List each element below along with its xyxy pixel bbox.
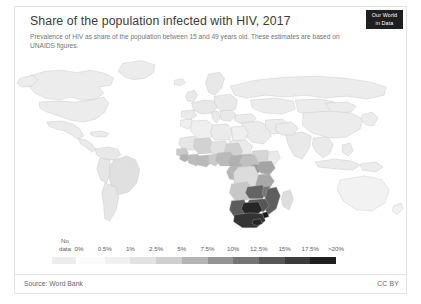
owid-chart: Share of the population infected with HI… <box>0 0 421 304</box>
footer-divider <box>15 274 406 275</box>
region-korea-japan[interactable] <box>361 112 378 126</box>
legend-segment-7[interactable] <box>259 257 285 264</box>
region-new-guinea[interactable] <box>360 162 383 172</box>
region-balkans[interactable] <box>219 110 236 121</box>
legend-tick-0: 0% <box>75 245 84 253</box>
legend-color-bar[interactable] <box>52 257 336 264</box>
region-russia[interactable] <box>230 76 386 99</box>
logo-line-1: Our World <box>366 11 403 19</box>
legend-tick-10: >20% <box>328 245 344 253</box>
world-choropleth-map[interactable] <box>16 56 405 234</box>
legend-no-data-swatch[interactable] <box>52 257 76 264</box>
region-madagascar[interactable] <box>281 190 293 210</box>
legend-segment-3[interactable] <box>156 257 182 264</box>
region-argentina-chile[interactable] <box>102 183 119 221</box>
legend-no-data-line-1: No <box>52 237 78 245</box>
legend-tick-7: 12.5% <box>250 245 268 253</box>
page-title: Share of the population infected with HI… <box>30 14 350 29</box>
license-label[interactable]: CC BY <box>377 279 399 288</box>
legend-segment-1[interactable] <box>105 257 131 264</box>
region-italy[interactable] <box>211 111 220 123</box>
region-pakistan-afghanistan[interactable] <box>275 122 298 135</box>
region-colombia-venezuela[interactable] <box>95 147 121 160</box>
legend-tick-4: 5% <box>177 245 186 253</box>
source-label[interactable]: Source: Word Bank <box>24 279 83 288</box>
logo-line-2: in Data <box>366 19 403 27</box>
map-legend[interactable]: No data 0%0.5%1%2.5%5%7.5%10%12.5%15%17.… <box>52 236 336 272</box>
region-kenya[interactable] <box>257 161 275 175</box>
region-central-asia[interactable] <box>250 98 295 114</box>
region-southeast-asia[interactable] <box>312 137 333 158</box>
legend-tick-5: 7.5% <box>200 245 214 253</box>
region-peru-bolivia[interactable] <box>97 158 110 183</box>
region-eastern-europe[interactable] <box>214 94 237 113</box>
region-greenland[interactable] <box>118 61 154 80</box>
chart-header: Share of the population infected with HI… <box>30 14 350 51</box>
legend-segment-4[interactable] <box>182 257 208 264</box>
legend-segment-0[interactable] <box>79 257 105 264</box>
legend-tick-6: 10% <box>227 245 239 253</box>
region-china[interactable] <box>302 111 363 138</box>
region-iberia[interactable] <box>182 110 197 120</box>
region-united-states[interactable] <box>39 97 109 122</box>
region-australia[interactable] <box>337 176 389 211</box>
legend-segment-5[interactable] <box>208 257 234 264</box>
region-iceland[interactable] <box>174 79 185 86</box>
legend-tick-3: 2.5% <box>149 245 163 253</box>
region-libya[interactable] <box>211 124 233 140</box>
region-uk-ireland[interactable] <box>186 90 198 102</box>
region-india[interactable] <box>285 132 311 159</box>
map-svg <box>16 56 405 234</box>
legend-gradient-bar[interactable] <box>79 257 336 264</box>
chart-subtitle: Prevalence of HIV as share of the popula… <box>30 32 342 51</box>
region-canada[interactable] <box>27 70 114 100</box>
legend-tick-1: 0.5% <box>98 245 112 253</box>
region-scandinavia[interactable] <box>206 72 225 95</box>
legend-segment-8[interactable] <box>285 257 311 264</box>
legend-segment-6[interactable] <box>233 257 259 264</box>
our-world-in-data-logo[interactable]: Our World in Data <box>366 10 403 29</box>
legend-segment-2[interactable] <box>130 257 156 264</box>
region-philippines[interactable] <box>342 143 353 156</box>
legend-tick-8: 15% <box>278 245 290 253</box>
legend-tick-9: 17.5% <box>302 245 320 253</box>
region-mexico[interactable] <box>47 121 84 139</box>
region-indonesia[interactable] <box>315 159 360 170</box>
region-central-america[interactable] <box>78 138 96 152</box>
legend-tick-2: 1% <box>126 245 135 253</box>
legend-segment-9[interactable] <box>310 257 336 264</box>
legend-tick-labels: 0%0.5%1%2.5%5%7.5%10%12.5%15%17.5%>20% <box>79 245 336 255</box>
region-new-zealand[interactable] <box>392 203 403 215</box>
region-egypt[interactable] <box>231 126 248 141</box>
region-caribbean[interactable] <box>91 131 109 137</box>
